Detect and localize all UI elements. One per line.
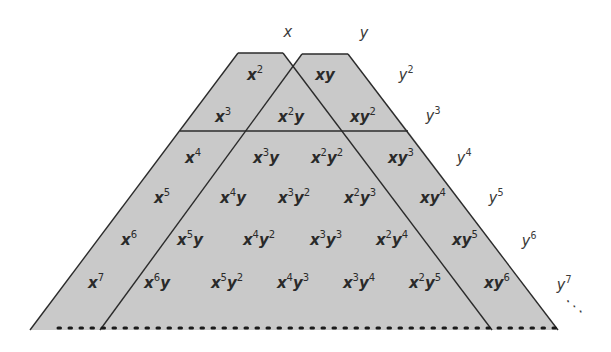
right-label: y3 [425, 109, 440, 124]
monomial-term: x3 [215, 110, 231, 125]
monomial-term: x5y [177, 233, 203, 248]
monomial-term: x4y2 [243, 233, 275, 248]
right-label: y6 [521, 234, 536, 249]
top-label: x [283, 25, 292, 40]
monomial-term: x3y4 [343, 276, 375, 291]
monomial-term: xy6 [484, 276, 510, 291]
monomial-term: xy [315, 68, 334, 83]
monomial-term: xy5 [452, 233, 478, 248]
monomial-term: x6 [121, 233, 137, 248]
monomial-term: x2y2 [311, 151, 343, 166]
right-label: y5 [488, 191, 503, 206]
ellipsis-indicator: ⋰ [568, 299, 583, 314]
right-label: y4 [456, 151, 471, 166]
top-label: y [359, 26, 368, 41]
monomial-term: x7 [88, 276, 104, 291]
right-label: y2 [398, 68, 413, 83]
monomial-term: x2y3 [344, 191, 376, 206]
monomial-term: xy3 [388, 151, 414, 166]
monomial-term: x2y5 [409, 276, 441, 291]
monomial-term: x2y4 [376, 233, 408, 248]
monomial-term: x3y2 [278, 191, 310, 206]
monomial-term: x2y [278, 110, 304, 125]
monomial-term: xy2 [350, 110, 376, 125]
monomial-term: x5y2 [211, 276, 243, 291]
monomial-term: x4y [220, 191, 246, 206]
monomial-term: x4y3 [277, 276, 309, 291]
monomial-term: x6y [144, 276, 170, 291]
monomial-term: x3y3 [310, 233, 342, 248]
monomial-term: x4 [185, 151, 201, 166]
monomial-term: x2 [247, 68, 263, 83]
monomial-term: xy4 [420, 191, 446, 206]
monomial-term: x3y [253, 151, 279, 166]
monomial-term: x5 [154, 191, 170, 206]
monomial-diagram: xyy2y3y4y5y6y7x2xyx3x2yxy2x4x3yx2y2xy3x5… [0, 0, 611, 352]
trapezoid-shapes [0, 0, 611, 352]
right-label: y7 [556, 278, 571, 293]
